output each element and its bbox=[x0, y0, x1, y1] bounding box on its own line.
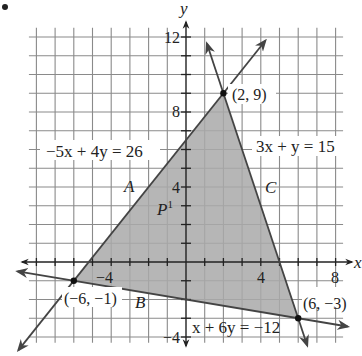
inequality-graph: y x 12 8 4 −4 −4 4 8 −5x + 4y = 26 3x + … bbox=[0, 0, 362, 356]
equation-line-c: 3x + y = 15 bbox=[256, 137, 335, 156]
vertex-label-left: (−6, −1) bbox=[64, 290, 117, 308]
tick-y-neg4: −4 bbox=[163, 329, 180, 346]
x-axis-label: x bbox=[353, 253, 362, 272]
line-label-b: B bbox=[135, 293, 146, 312]
tick-x-8: 8 bbox=[331, 269, 339, 286]
tick-y-4: 4 bbox=[172, 179, 180, 196]
vertex-label-top: (2, 9) bbox=[232, 86, 267, 104]
tick-y-8: 8 bbox=[172, 103, 180, 120]
y-axis-label: y bbox=[178, 0, 188, 18]
tick-x-neg4: −4 bbox=[96, 269, 113, 286]
vertex-label-right: (6, −3) bbox=[303, 295, 347, 313]
line-label-a: A bbox=[123, 177, 135, 196]
equation-line-a: −5x + 4y = 26 bbox=[46, 142, 143, 161]
vertex-top bbox=[220, 90, 226, 96]
vertex-left bbox=[71, 278, 77, 284]
line-label-c: C bbox=[265, 178, 277, 197]
equation-line-b: x + 6y = −12 bbox=[192, 318, 280, 337]
tick-y-12: 12 bbox=[164, 29, 180, 46]
tick-x-4: 4 bbox=[257, 269, 265, 286]
